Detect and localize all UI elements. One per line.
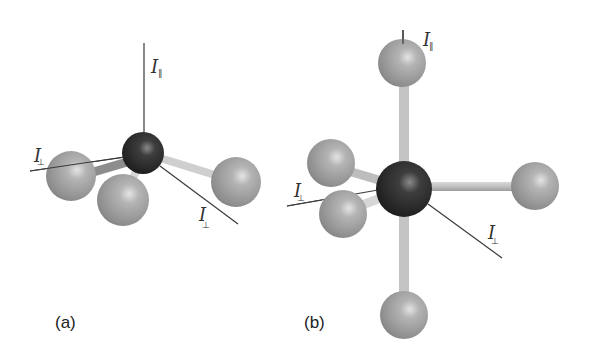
ligand-atom-right xyxy=(211,157,261,207)
label-i-parallel: I ∥ xyxy=(150,56,163,78)
ligand-atom-lower-left xyxy=(319,190,367,238)
label-i-perp-right: I ⊥ xyxy=(198,204,210,230)
svg-text:⊥: ⊥ xyxy=(37,157,45,167)
svg-text:⊥: ⊥ xyxy=(202,220,210,230)
ligand-atom-top xyxy=(378,39,426,87)
bond xyxy=(399,84,409,166)
label-i-parallel: I ∥ xyxy=(422,29,434,51)
ligand-atom-right xyxy=(511,162,559,210)
svg-text:⊥: ⊥ xyxy=(297,193,305,203)
label-i-perp-right: I ⊥ xyxy=(487,222,499,246)
ligand-atom-left xyxy=(46,151,96,201)
svg-text:∥: ∥ xyxy=(158,68,163,78)
label-i-perp-left: I ⊥ xyxy=(33,145,45,167)
central-atom xyxy=(122,132,164,174)
ligand-atom-front xyxy=(97,174,149,226)
bond xyxy=(399,212,409,294)
panel-label-a: (a) xyxy=(55,313,76,332)
ligand-atom-upper-left xyxy=(307,139,355,187)
molecular-geometry-figure: I ∥ I ⊥ I ⊥ (a) xyxy=(0,0,596,356)
svg-text:⊥: ⊥ xyxy=(491,236,499,246)
svg-text:∥: ∥ xyxy=(429,41,434,51)
bond xyxy=(430,182,514,191)
panel-b: I ∥ I ⊥ I ⊥ (b) xyxy=(287,29,559,339)
panel-label-b: (b) xyxy=(304,313,325,332)
label-i-perp-left: I ⊥ xyxy=(293,180,305,203)
ligand-atom-bottom xyxy=(380,291,428,339)
panel-a: I ∥ I ⊥ I ⊥ (a) xyxy=(30,43,261,332)
central-atom xyxy=(376,161,432,217)
